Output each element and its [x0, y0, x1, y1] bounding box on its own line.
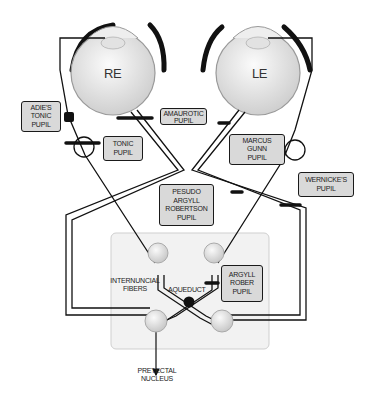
label-line: ARGYLL	[173, 197, 199, 206]
label-line: PUPIL	[174, 117, 193, 124]
tonic-pupil-label: TONIC PUPIL	[103, 136, 143, 161]
left-eye-label: LE	[252, 66, 267, 81]
label-line: WERNICKE'S	[305, 176, 347, 185]
pretectal-right	[145, 310, 167, 332]
label-line: GUNN	[247, 145, 267, 154]
label-line: PUPIL	[31, 121, 50, 130]
label-line: ROBER	[230, 279, 254, 288]
label-line: AMAUROTIC	[163, 110, 203, 117]
pretectal-nucleus-label: PRETECTAL NUCLEUS	[135, 367, 179, 383]
right-eye-label: RE	[104, 66, 121, 81]
label-line: NUCLEUS	[135, 375, 179, 383]
label-line: PESUDO	[172, 188, 200, 197]
label-line: ADIE'S	[30, 104, 51, 113]
adies-tonic-pupil-label: ADIE'S TONIC PUPIL	[21, 101, 61, 132]
label-line: FIBERS	[110, 285, 160, 293]
internuncial-fibers-label: INTERNUNCIAL FIBERS	[110, 277, 160, 293]
label-line: ARGYLL	[229, 271, 255, 280]
label-line: PUPIL	[247, 154, 266, 163]
label-line: TONIC	[113, 140, 134, 149]
aqueduct	[184, 297, 195, 308]
label-line: INTERNUNCIAL	[110, 277, 160, 285]
label-line: MARCUS	[242, 137, 271, 146]
label-line: PUPIL	[177, 214, 196, 223]
label-line: PUPIL	[113, 149, 132, 158]
label-line: PUPIL	[232, 288, 251, 297]
label-line: ROBERTSON	[165, 205, 207, 214]
amaurotic-pupil-label: AMAUROTIC PUPIL	[160, 108, 207, 125]
label-line: TONIC	[31, 112, 52, 121]
edinger-westphal-right	[148, 243, 168, 263]
edinger-westphal-left	[204, 243, 224, 263]
label-line: PRETECTAL	[135, 367, 179, 375]
label-line: PUPIL	[316, 185, 335, 194]
aqueduct-label: AQUEDUCT	[168, 286, 206, 294]
wernickes-pupil-label: WERNICKE'S PUPIL	[298, 172, 354, 197]
pretectal-left	[211, 310, 233, 332]
argyll-robertson-pupil-label: ARGYLL ROBER PUPIL	[221, 265, 263, 302]
pseudo-argyll-robertson-pupil-label: PESUDO ARGYLL ROBERTSON PUPIL	[159, 184, 214, 226]
marcus-gunn-pupil-label: MARCUS GUNN PUPIL	[229, 134, 285, 165]
